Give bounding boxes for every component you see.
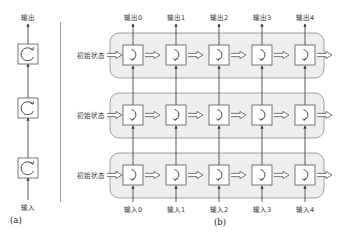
initial-state-label: 初始状态 xyxy=(77,171,105,180)
panel-a-input-label: 输入 xyxy=(21,203,35,212)
output-label: 输出2 xyxy=(210,13,228,22)
unrolled-step-icon xyxy=(209,45,229,65)
input-label: 输入1 xyxy=(167,205,185,214)
recurrent-loop-icon xyxy=(18,98,38,118)
unrolled-step-icon xyxy=(295,105,315,125)
initial-state-label: 初始状态 xyxy=(77,51,105,60)
output-labels: 输出0 输出1 输出2 输出3 输出4 xyxy=(124,13,314,22)
output-label: 输出3 xyxy=(253,13,271,22)
panel-a-output-label: 输出 xyxy=(21,13,35,22)
unrolled-step-icon xyxy=(123,45,143,65)
panel-a-caption: (a) xyxy=(10,215,22,225)
input-labels: 输入0 输入1 输入2 输入3 输入4 xyxy=(124,205,314,214)
unrolled-step-icon xyxy=(166,165,186,185)
output-label: 输出1 xyxy=(167,13,185,22)
output-label: 输出0 xyxy=(124,13,142,22)
unrolled-step-icon xyxy=(209,165,229,185)
unrolled-step-icon xyxy=(252,45,272,65)
input-label: 输入0 xyxy=(124,205,142,214)
initial-state-label: 初始状态 xyxy=(77,111,105,120)
input-label: 输入3 xyxy=(253,205,271,214)
recurrent-loop-icon xyxy=(18,44,38,64)
unrolled-step-icon xyxy=(252,165,272,185)
unrolled-step-icon xyxy=(166,45,186,65)
panel-b-caption: (b) xyxy=(214,217,226,227)
unrolled-step-icon xyxy=(209,105,229,125)
output-label: 输出4 xyxy=(296,13,314,22)
unrolled-step-icon xyxy=(295,165,315,185)
panel-a: 输出 输入 (a) xyxy=(10,13,38,225)
input-label: 输入2 xyxy=(210,205,228,214)
input-label: 输入4 xyxy=(296,205,314,214)
unrolled-step-icon xyxy=(123,165,143,185)
unrolled-step-icon xyxy=(295,45,315,65)
unrolled-step-icon xyxy=(252,105,272,125)
recurrent-loop-icon xyxy=(18,158,38,178)
unrolled-step-icon xyxy=(123,105,143,125)
rnn-diagram: 输出 输入 (a) 输出0 输出1 输出2 输出3 输出4 xyxy=(0,0,352,241)
unrolled-step-icon xyxy=(166,105,186,125)
panel-b: 输出0 输出1 输出2 输出3 输出4 xyxy=(77,13,332,227)
